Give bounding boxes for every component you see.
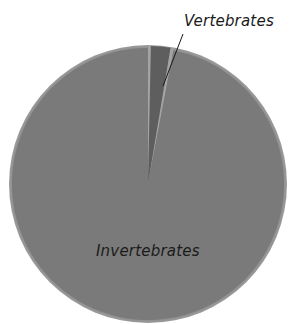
invertebrates-label: Invertebrates (96, 242, 200, 260)
vertebrates-label: Vertebrates (184, 12, 274, 30)
pie-slices (9, 45, 287, 323)
invertebrates-slice (12, 48, 284, 320)
pie-chart (0, 0, 297, 324)
